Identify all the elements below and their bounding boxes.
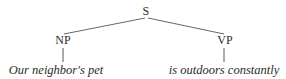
- leaf-text-vp: is outdoors constantly: [169, 64, 279, 77]
- node-label-np: NP: [55, 34, 71, 46]
- branch-s-to-vp: [148, 18, 224, 34]
- leaf-text-np: Our neighbor's pet: [9, 64, 103, 77]
- node-label-s: S: [143, 5, 150, 17]
- syntax-tree-figure: S NP VP Our neighbor's pet is outdoors c…: [0, 0, 286, 79]
- node-label-vp: VP: [217, 34, 233, 46]
- branch-s-to-np: [64, 18, 145, 34]
